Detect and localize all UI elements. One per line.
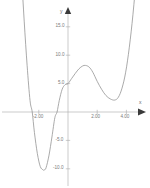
y-tick-label: 15.0 — [56, 24, 65, 29]
y-axis-group — [65, 7, 71, 186]
plot-figure: -2.002.004.00 15.010.05.0-5.0-10.0 x y — [0, 0, 150, 188]
y-tick-label: -5.0 — [56, 138, 64, 143]
y-axis-arrow-icon — [65, 7, 71, 14]
x-tick-label: 4.00 — [120, 115, 129, 120]
plot-canvas — [0, 0, 150, 188]
y-tick-label: -10.0 — [53, 166, 63, 171]
y-tick-label: 5.0 — [58, 81, 64, 86]
y-axis-label: y — [60, 9, 63, 14]
x-tick-label: -2.00 — [33, 115, 43, 120]
x-tick-label: 2.00 — [91, 115, 100, 120]
y-tick-label: 10.0 — [56, 53, 65, 58]
curve-path — [18, 0, 140, 170]
x-axis-label: x — [139, 100, 142, 105]
x-axis-arrow-icon — [138, 109, 146, 116]
